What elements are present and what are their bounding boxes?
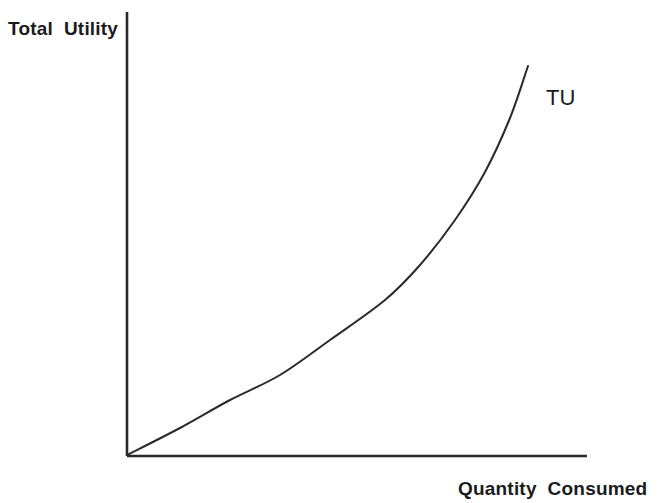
chart-canvas — [0, 0, 658, 503]
y-axis-label: Total Utility — [8, 19, 118, 38]
tu-curve-label: TU — [546, 87, 575, 109]
chart-figure: Total Utility Quantity Consumed TU — [0, 0, 658, 503]
x-axis-label: Quantity Consumed — [458, 479, 647, 498]
chart-background — [0, 0, 658, 503]
